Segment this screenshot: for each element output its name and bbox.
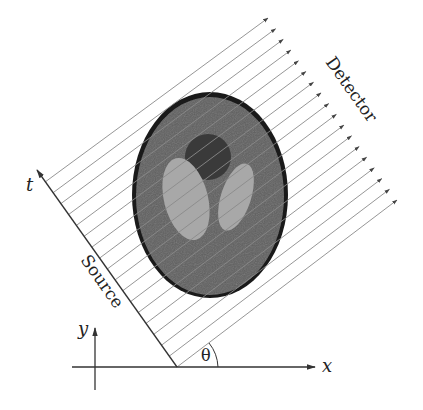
x-axis-label: x [322, 355, 332, 376]
t-axis-label: t [26, 174, 34, 195]
y-axis-label: y [77, 318, 89, 339]
detector-label: Detector [322, 53, 382, 127]
angle-theta-label: θ [201, 346, 211, 365]
diagram-canvas: θ x y t Source Detector [0, 0, 423, 410]
tomography-diagram: θ x y t Source Detector [0, 0, 423, 410]
source-label: Source [77, 251, 128, 312]
